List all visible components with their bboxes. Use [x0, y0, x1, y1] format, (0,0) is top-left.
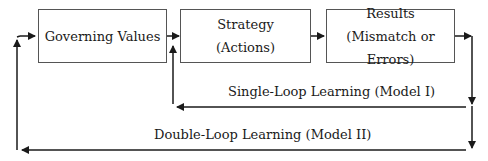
node-label: Strategy [217, 13, 274, 36]
node-sublabel: (Actions) [216, 36, 275, 59]
node-governing-values: Governing Values [38, 9, 167, 63]
node-strategy: Strategy (Actions) [180, 9, 311, 63]
node-label: Governing Values [45, 25, 161, 48]
node-sublabel: (Mismatch or Errors) [327, 25, 454, 71]
node-results: Results (Mismatch or Errors) [326, 9, 455, 63]
node-label: Results [366, 2, 415, 25]
double-loop-label: Double-Loop Learning (Model II) [154, 127, 371, 142]
single-loop-label: Single-Loop Learning (Model I) [228, 84, 435, 99]
